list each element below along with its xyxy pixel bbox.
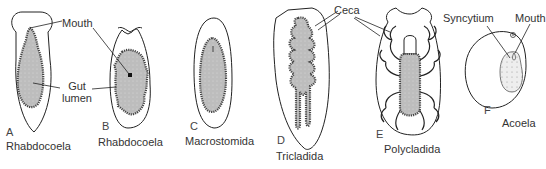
panel-letter-a: A [6,126,13,138]
ceca-label: Ceca [334,4,360,16]
syncytium-label: Syncytium [443,12,494,24]
taxon-label-d: Tricladida [276,150,323,162]
panel-d-organism [274,8,340,149]
gut-lumen-line2: lumen [62,92,92,104]
taxon-label-f: Acoela [502,117,536,129]
panel-letter-b: B [102,120,109,132]
taxon-label-e: Polycladida [384,143,440,155]
taxon-label-c: Macrostomida [185,135,254,147]
panel-f-organism [465,24,530,108]
gut-lumen-line1: Gut [62,80,92,92]
panel-letter-d: D [277,134,285,146]
taxon-label-a: Rhabdocoela [6,140,71,152]
mouth-label-f: Mouth [515,12,546,24]
panel-c-organism [194,18,232,128]
taxon-label-b: Rhabdocoela [98,136,163,148]
panel-letter-f: F [484,104,491,116]
panel-letter-c: C [190,120,198,132]
panel-a-organism [12,12,62,132]
gut-lumen-label: Gut lumen [62,80,92,104]
panel-letter-e: E [376,128,383,140]
panel-e-organism [354,8,441,135]
panel-b-organism [92,27,150,128]
mouth-label-ab: Mouth [62,17,93,29]
